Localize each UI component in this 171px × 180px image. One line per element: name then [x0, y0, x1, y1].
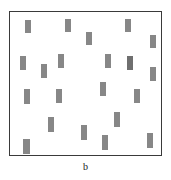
particle-marker: [81, 125, 87, 140]
particle-marker: [127, 56, 133, 70]
particle-marker: [41, 64, 47, 78]
particle-marker: [105, 54, 111, 68]
particle-marker: [56, 89, 62, 103]
particle-marker: [102, 135, 108, 150]
particle-marker: [23, 139, 30, 154]
particle-marker: [48, 117, 54, 132]
plot-frame: [9, 11, 162, 156]
particle-marker: [65, 19, 71, 32]
particle-marker: [134, 89, 140, 103]
particle-marker: [58, 54, 64, 68]
particle-marker: [150, 67, 156, 81]
particle-marker: [147, 133, 153, 148]
particle-marker: [150, 35, 156, 48]
particle-marker: [25, 20, 31, 33]
particle-marker: [114, 112, 120, 127]
particle-marker: [86, 32, 92, 45]
particle-marker: [100, 82, 106, 96]
panel-caption: b: [0, 161, 171, 173]
figure-panel: b: [0, 0, 171, 180]
particle-marker: [125, 19, 131, 32]
particle-marker: [24, 89, 30, 104]
particle-marker: [20, 56, 26, 70]
